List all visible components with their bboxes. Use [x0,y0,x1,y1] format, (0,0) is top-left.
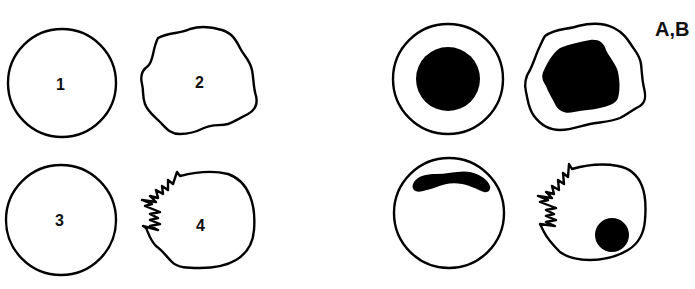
cell-label-1: 1 [56,77,65,93]
cell-label-4: 4 [196,218,205,234]
panel-label: A,B [655,19,689,39]
cell-b1-nucleus [416,47,480,111]
panel-a [6,27,257,275]
panel-b [393,24,646,268]
cell-b4-nucleus [595,218,629,252]
cell-label-3: 3 [55,213,64,229]
cell-b4-outline [538,164,646,260]
cell-b3-nucleus [413,171,491,192]
cell-label-2: 2 [195,75,204,91]
cell-b2-nucleus [542,40,619,113]
cell-diagram [0,0,695,289]
